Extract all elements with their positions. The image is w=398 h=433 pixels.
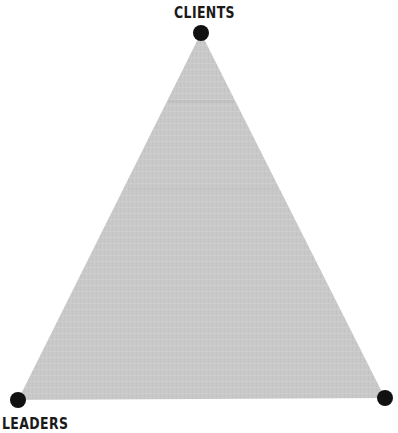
label-clients: CLIENTS bbox=[174, 3, 235, 22]
node-bottom-left bbox=[10, 392, 26, 408]
label-leaders: LEADERS bbox=[2, 414, 68, 433]
node-top bbox=[193, 25, 209, 41]
triangle-shape bbox=[18, 33, 385, 400]
node-bottom-right bbox=[377, 390, 393, 406]
